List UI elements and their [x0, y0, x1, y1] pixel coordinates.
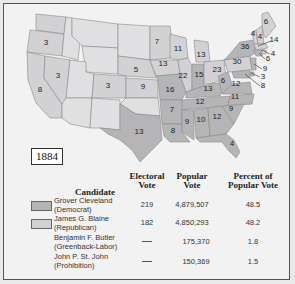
candidate-party: (Prohibition)	[54, 261, 94, 270]
electoral-vote-dash	[142, 241, 152, 242]
popular-vote: 4,879,507	[170, 200, 214, 209]
candidate-name: James G. Blaine	[54, 214, 109, 223]
electoral-vote: 219	[127, 200, 167, 209]
popular-vote: 150,369	[174, 257, 218, 266]
popular-vote: 175,370	[174, 237, 218, 246]
popular-vote: 4,850,293	[170, 218, 214, 227]
candidate-party: (Greenback-Labor)	[54, 242, 117, 251]
percent-vote: 1.8	[222, 237, 284, 246]
candidate-party: (Democrat)	[54, 205, 92, 214]
results-table: Candidate Electoral Vote Popular Vote Pe…	[0, 0, 295, 284]
header-electoral-line2: Vote	[127, 181, 167, 190]
percent-vote: 48.5	[222, 200, 284, 209]
candidate-party: (Republican)	[54, 223, 97, 232]
candidate-name: John P. St. John	[54, 252, 108, 261]
legend-swatch-democrat	[31, 201, 52, 211]
candidate-name: Grover Cleveland	[54, 196, 112, 205]
candidate-name: Benjamin F. Butler	[54, 233, 115, 242]
percent-vote: 1.5	[222, 257, 284, 266]
legend-swatch-republican	[31, 219, 52, 229]
percent-vote: 48.2	[222, 218, 284, 227]
electoral-vote-dash	[142, 261, 152, 262]
electoral-vote: 182	[127, 218, 167, 227]
header-popular-line2: Vote	[170, 181, 214, 190]
header-percent-line2: Popular Vote	[222, 181, 284, 190]
